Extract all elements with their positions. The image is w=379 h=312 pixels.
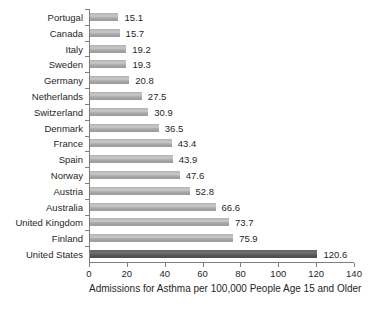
bar [90,218,229,226]
bar-row: Austria52.8 [90,183,354,199]
bar-row: Spain43.9 [90,151,354,167]
category-label: France [53,138,83,149]
bar [90,139,172,147]
category-label: Switzerland [34,106,83,117]
bar-row: Portugal15.1 [90,9,354,25]
x-axis-tick [316,263,317,267]
y-axis-tick [85,246,90,247]
x-axis: 020406080100120140 [89,263,354,283]
bar [90,124,159,132]
x-tick-label: 40 [159,268,170,279]
category-label: United States [26,249,83,260]
x-axis-tick [240,263,241,267]
category-label: Denmark [44,122,83,133]
bar [90,76,129,84]
bar [90,203,216,211]
value-label: 20.8 [135,75,154,86]
x-tick-label: 140 [346,268,362,279]
x-axis-tick [165,263,166,267]
y-axis-tick [85,199,90,200]
y-axis-tick [85,56,90,57]
value-label: 19.2 [132,43,151,54]
value-label: 15.1 [124,11,143,22]
bar [90,45,126,53]
plot-area: Portugal15.1Canada15.7Italy19.2Sweden19.… [89,9,354,263]
x-axis-tick [89,263,90,267]
value-label: 30.9 [154,106,173,117]
category-label: Spain [59,154,83,165]
x-tick-label: 20 [122,268,133,279]
y-axis-tick [85,104,90,105]
category-label: Sweden [49,59,83,70]
category-label: Portugal [48,11,83,22]
value-label: 36.5 [165,122,184,133]
bar-row: Norway47.6 [90,167,354,183]
bar-row: Canada15.7 [90,25,354,41]
y-axis-tick [85,215,90,216]
y-axis-tick [85,9,90,10]
category-label: Canada [50,27,83,38]
value-label: 47.6 [186,170,205,181]
x-axis-tick [278,263,279,267]
bar [90,155,173,163]
value-label: 75.9 [239,233,258,244]
bar [90,29,120,37]
bar-row: United Kingdom73.7 [90,215,354,231]
bar-row: Australia66.6 [90,199,354,215]
bar [90,60,126,68]
y-axis-tick [85,167,90,168]
category-label: Norway [51,170,83,181]
y-axis-tick [85,25,90,26]
value-label: 52.8 [196,185,215,196]
x-tick-label: 120 [308,268,324,279]
value-label: 120.6 [323,249,347,260]
bar-row: Sweden19.3 [90,56,354,72]
value-label: 73.7 [235,217,254,228]
value-label: 19.3 [132,59,151,70]
value-label: 15.7 [126,27,145,38]
bar-row: Netherlands27.5 [90,88,354,104]
x-tick-label: 80 [235,268,246,279]
bar-highlight [90,250,317,258]
category-label: Germany [44,75,83,86]
bar-row: Finland75.9 [90,230,354,246]
bar [90,187,190,195]
y-axis-tick [85,72,90,73]
bar-row: France43.4 [90,136,354,152]
category-label: Finland [52,233,83,244]
bar [90,92,142,100]
y-axis-tick [85,183,90,184]
x-axis-title: Admissions for Asthma per 100,000 People… [89,283,354,294]
x-axis-tick [127,263,128,267]
asthma-admissions-bar-chart: Portugal15.1Canada15.7Italy19.2Sweden19.… [0,0,379,312]
x-axis-tick [354,263,355,267]
x-tick-label: 0 [86,268,91,279]
bar-row: Denmark36.5 [90,120,354,136]
bar [90,108,148,116]
category-label: United Kingdom [15,217,83,228]
y-axis-tick [85,41,90,42]
bar [90,234,233,242]
x-tick-label: 60 [197,268,208,279]
bar [90,13,118,21]
bar-row: Germany20.8 [90,72,354,88]
category-label: Italy [66,43,83,54]
y-axis-tick [85,88,90,89]
category-label: Australia [46,201,83,212]
bar-row: Switzerland30.9 [90,104,354,120]
y-axis-tick [85,120,90,121]
value-label: 27.5 [148,90,167,101]
y-axis-tick [85,136,90,137]
x-tick-label: 100 [270,268,286,279]
x-axis-tick [203,263,204,267]
bar [90,171,180,179]
category-label: Netherlands [32,90,83,101]
category-label: Austria [53,185,83,196]
y-axis-tick [85,151,90,152]
bar-row: United States120.6 [90,246,354,262]
value-label: 43.4 [178,138,197,149]
value-label: 43.9 [179,154,198,165]
value-label: 66.6 [222,201,241,212]
bar-row: Italy19.2 [90,41,354,57]
y-axis-tick [85,230,90,231]
